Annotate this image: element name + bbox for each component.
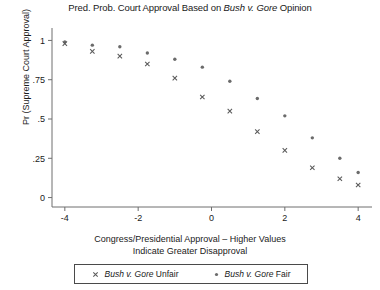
legend-label-italic: Bush v. Gore	[104, 269, 153, 279]
data-point-x	[145, 62, 149, 66]
data-point-x	[200, 95, 204, 99]
legend-dot-icon	[212, 270, 221, 279]
data-point-x	[310, 166, 314, 170]
data-point-dot	[201, 65, 204, 68]
data-point-dot	[256, 97, 259, 100]
data-point-dot	[118, 45, 121, 48]
x-tick-label: 0	[209, 213, 214, 223]
chart-legend: Bush v. Gore UnfairBush v. Gore Fair	[74, 264, 308, 284]
data-point-dot	[146, 51, 149, 54]
data-point-dot	[283, 114, 286, 117]
y-tick-label: .25	[32, 154, 45, 164]
data-point-dot	[91, 43, 94, 46]
data-point-x	[338, 177, 342, 181]
y-tick-label: .5	[37, 114, 45, 124]
x-tick-label: -2	[134, 213, 142, 223]
legend-label: Bush v. Gore Unfair	[104, 269, 178, 279]
legend-item: Bush v. Gore Fair	[212, 269, 291, 279]
legend-label-tail: Fair	[273, 269, 290, 279]
x-axis-label-line2: Indicate Greater Disapproval	[0, 246, 380, 258]
legend-item: Bush v. Gore Unfair	[91, 269, 178, 279]
legend-x-icon	[91, 270, 100, 279]
axes: 0.25.5.751-4-2024	[32, 28, 372, 223]
x-axis-label-line1: Congress/Presidential Approval – Higher …	[0, 234, 380, 246]
x-axis-label: Congress/Presidential Approval – Higher …	[0, 234, 380, 257]
data-point-x	[173, 76, 177, 80]
data-point-x	[283, 148, 287, 152]
data-point-x	[356, 183, 360, 187]
x-tick-label: 2	[282, 213, 287, 223]
data-point-dot	[356, 171, 359, 174]
data-point-x	[118, 54, 122, 58]
data-point-x	[228, 109, 232, 113]
legend-label-italic: Bush v. Gore	[225, 269, 274, 279]
y-tick-label: 0	[40, 193, 45, 203]
legend-label: Bush v. Gore Fair	[225, 269, 291, 279]
data-point-x	[90, 49, 94, 53]
y-tick-label: .75	[32, 75, 45, 85]
x-tick-label: -4	[61, 213, 69, 223]
data-point-dot	[228, 80, 231, 83]
data-point-x	[255, 129, 259, 133]
x-tick-label: 4	[356, 213, 361, 223]
y-tick-label: 1	[40, 36, 45, 46]
data-point-dot	[173, 58, 176, 61]
data-points	[63, 40, 361, 187]
data-point-dot	[338, 157, 341, 160]
legend-label-tail: Unfair	[153, 269, 178, 279]
chart-container: Pred. Prob. Court Approval Based on Bush…	[0, 0, 380, 290]
data-point-dot	[311, 136, 314, 139]
